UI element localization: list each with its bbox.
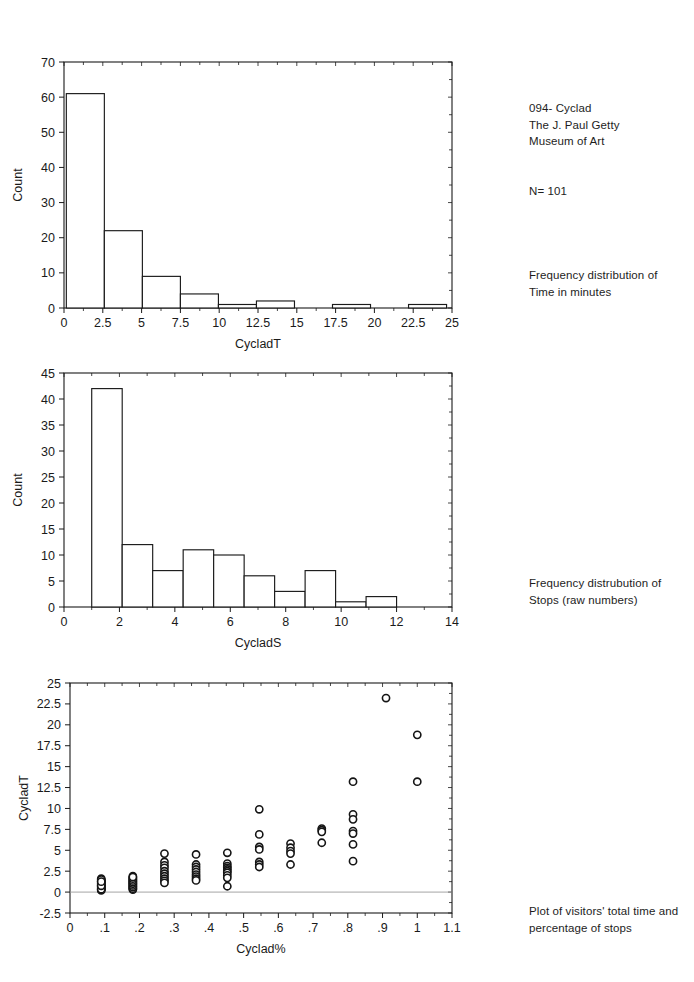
y-tick-label: 20	[47, 718, 61, 732]
x-tick-label: .5	[238, 921, 248, 935]
caption-scatter: Plot of visitors' total time and percent…	[529, 903, 678, 936]
histogram-bar	[366, 597, 396, 607]
y-tick-label: 30	[41, 445, 55, 459]
y-tick-label: 40	[41, 393, 55, 407]
histogram-bar	[183, 550, 213, 607]
y-tick-label: 10	[41, 549, 55, 563]
y-tick-label: 10	[47, 802, 61, 816]
caption-histogram-stops: Frequency distrubution of Stops (raw num…	[529, 575, 661, 608]
y-tick-label: 12.5	[37, 781, 61, 795]
scatter-point	[98, 878, 105, 885]
scatter-point	[256, 863, 263, 870]
y-tick-label: 17.5	[37, 739, 61, 753]
x-tick-label: 12.5	[246, 316, 270, 330]
x-tick-label: 15	[290, 316, 304, 330]
scatter-point	[414, 778, 421, 785]
histogram-bar	[275, 591, 305, 607]
y-axis-title: Count	[11, 168, 25, 202]
scatter-point	[256, 806, 263, 813]
scatter-point	[414, 731, 421, 738]
y-tick-label: 50	[41, 126, 55, 140]
plot-frame	[70, 683, 452, 913]
y-tick-label: 22.5	[37, 697, 61, 711]
x-tick-label: 4	[171, 615, 178, 629]
histogram-cyclads-svg: 02468101214051015202530354045CycladSCoun…	[0, 355, 500, 670]
y-tick-label: 5	[54, 844, 61, 858]
y-tick-label: 20	[41, 497, 55, 511]
histogram-cycladt-svg: 02.557.51012.51517.52022.525010203040506…	[0, 40, 500, 360]
scatter-point	[161, 850, 168, 857]
x-tick-label: 2	[116, 615, 123, 629]
y-tick-label: 10	[41, 266, 55, 280]
scatter-point	[287, 861, 294, 868]
x-tick-label: .9	[377, 921, 387, 935]
scatter-point	[349, 830, 356, 837]
histogram-bar	[214, 555, 244, 607]
x-tick-label: 0	[67, 921, 74, 935]
histogram-bar	[218, 304, 256, 308]
scatter-point	[224, 874, 231, 881]
scatter-point	[349, 841, 356, 848]
y-tick-label: 7.5	[44, 823, 61, 837]
y-tick-label: -2.5	[39, 907, 61, 921]
x-tick-label: 25	[445, 316, 459, 330]
scatter-point	[318, 828, 325, 835]
scatter-point	[256, 831, 263, 838]
y-tick-label: 60	[41, 91, 55, 105]
x-tick-label: 20	[367, 316, 381, 330]
x-tick-label: .6	[273, 921, 283, 935]
scatter-point	[192, 851, 199, 858]
histogram-bar	[244, 576, 274, 607]
x-tick-label: 10	[212, 316, 226, 330]
scatter-point	[318, 839, 325, 846]
x-tick-label: 22.5	[401, 316, 425, 330]
x-tick-label: .7	[308, 921, 318, 935]
figure-sheet: 02.557.51012.51517.52022.525010203040506…	[0, 0, 694, 982]
figure-title: 094- Cyclad The J. Paul Getty Museum of …	[529, 100, 620, 150]
histogram-bar	[256, 301, 294, 308]
sample-size-label: N= 101	[529, 183, 567, 200]
histogram-bar	[409, 304, 447, 308]
scatter-cycladt-vs-cycladpct-svg: 0.1.2.3.4.5.6.7.8.911.1-2.502.557.51012.…	[0, 665, 500, 982]
x-tick-label: 6	[227, 615, 234, 629]
scatter-point	[349, 816, 356, 823]
x-axis-title: CycladS	[235, 636, 282, 650]
y-tick-label: 35	[41, 419, 55, 433]
y-tick-label: 30	[41, 196, 55, 210]
histogram-cycladt: 02.557.51012.51517.52022.525010203040506…	[0, 40, 500, 360]
y-tick-label: 25	[41, 471, 55, 485]
x-tick-label: 7.5	[172, 316, 189, 330]
histogram-bar	[332, 304, 370, 308]
caption-histogram-time: Frequency distribution of Time in minute…	[529, 267, 657, 300]
y-tick-label: 2.5	[44, 865, 61, 879]
histogram-bar	[92, 389, 122, 607]
scatter-cycladt-vs-cycladpct: 0.1.2.3.4.5.6.7.8.911.1-2.502.557.51012.…	[0, 665, 500, 982]
scatter-point	[129, 873, 136, 880]
scatter-point	[256, 846, 263, 853]
x-axis-title: CycladT	[235, 337, 281, 351]
scatter-point	[161, 879, 168, 886]
x-tick-label: 1	[414, 921, 421, 935]
x-tick-label: .3	[169, 921, 179, 935]
x-tick-label: .8	[343, 921, 353, 935]
x-tick-label: .1	[100, 921, 110, 935]
scatter-point	[349, 858, 356, 865]
x-tick-label: 10	[334, 615, 348, 629]
y-axis-title: Count	[11, 473, 25, 507]
y-tick-label: 15	[47, 760, 61, 774]
x-tick-label: 0	[61, 615, 68, 629]
x-tick-label: 8	[282, 615, 289, 629]
histogram-bar	[66, 94, 104, 308]
x-tick-label: 12	[390, 615, 404, 629]
y-tick-label: 0	[54, 886, 61, 900]
histogram-bar	[122, 545, 152, 607]
y-tick-label: 15	[41, 523, 55, 537]
y-tick-label: 0	[48, 302, 55, 316]
y-tick-label: 20	[41, 231, 55, 245]
scatter-point	[224, 849, 231, 856]
x-tick-label: 17.5	[323, 316, 347, 330]
annotation-column: 094- Cyclad The J. Paul Getty Museum of …	[529, 0, 694, 982]
scatter-point	[224, 883, 231, 890]
histogram-bar	[336, 602, 366, 607]
y-axis-title: CycladT	[17, 775, 31, 821]
